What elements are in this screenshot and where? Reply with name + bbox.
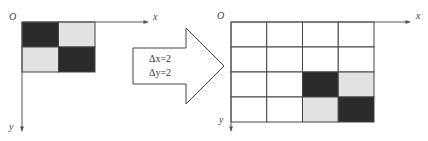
grid-cell-white (338, 47, 374, 72)
grid-cell-white (231, 47, 267, 72)
grid-cell-dark (338, 97, 374, 122)
grid-cell-dark (303, 72, 339, 97)
left-checkerboard (22, 22, 95, 72)
translation-diagram: O x y Δx=2 Δy=2 O x y (0, 0, 428, 141)
left-y-label: y (8, 121, 14, 132)
grid-cell-white (338, 22, 374, 47)
grid-cell-dark (22, 22, 59, 47)
right-grid (231, 22, 374, 122)
grid-cell-white (303, 22, 339, 47)
grid-cell-light (59, 22, 96, 47)
delta-x-label: Δx=2 (149, 53, 171, 64)
grid-cell-white (231, 97, 267, 122)
left-x-label: x (152, 11, 158, 22)
grid-cell-white (303, 47, 339, 72)
right-origin-label: O (217, 10, 224, 21)
grid-cell-white (267, 97, 303, 122)
right-x-label: x (415, 10, 421, 21)
delta-y-label: Δy=2 (149, 67, 171, 78)
grid-cell-white (267, 22, 303, 47)
right-figure: O x y (217, 10, 421, 131)
grid-cell-light (338, 72, 374, 97)
grid-cell-dark (59, 47, 96, 72)
left-origin-label: O (9, 11, 16, 22)
grid-cell-white (231, 22, 267, 47)
right-y-label: y (218, 114, 224, 125)
translation-arrow: Δx=2 Δy=2 (133, 28, 224, 104)
block-arrow-shape (133, 28, 224, 104)
grid-cell-white (267, 72, 303, 97)
diagram-canvas: O x y Δx=2 Δy=2 O x y (0, 0, 428, 141)
grid-cell-light (303, 97, 339, 122)
grid-cell-light (22, 47, 59, 72)
grid-cell-white (267, 47, 303, 72)
grid-cell-white (231, 72, 267, 97)
